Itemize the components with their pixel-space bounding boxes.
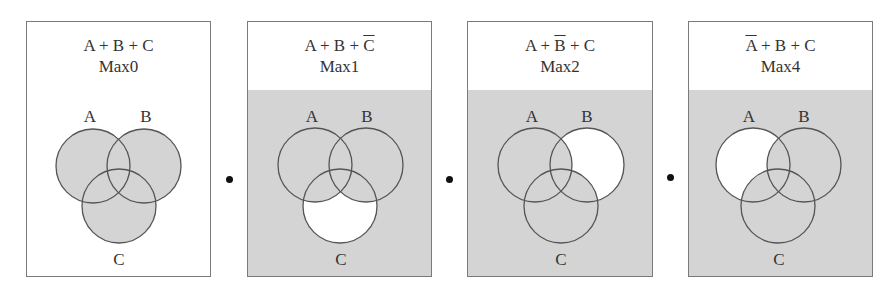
and-operator-dot <box>667 174 674 181</box>
maxterm-label: Max4 <box>761 56 801 77</box>
label-a: A <box>84 107 97 126</box>
venn-diagram: A B C <box>689 90 872 276</box>
maxterm-expression: A + B + C <box>83 35 153 56</box>
venn-panel-max1: A + B + C Max1 A B C <box>247 21 432 277</box>
maxterm-label: Max1 <box>320 56 360 77</box>
panel-header: A + B + C Max4 <box>689 22 872 91</box>
label-b: B <box>361 107 372 126</box>
venn-diagram: A B C <box>27 90 210 276</box>
label-b: B <box>581 107 592 126</box>
maxterm-label: Max2 <box>540 56 580 77</box>
and-operator-dot <box>226 176 233 183</box>
venn-panel-max4: A + B + C Max4 A B C <box>688 21 873 277</box>
label-b: B <box>798 107 809 126</box>
panel-header: A + B + C Max1 <box>248 22 431 91</box>
label-a: A <box>306 107 319 126</box>
venn-diagram: A B C <box>468 90 652 276</box>
venn-diagram: A B C <box>248 90 431 276</box>
label-c: C <box>335 250 346 269</box>
label-a: A <box>743 107 756 126</box>
maxterm-expression: A + B + C <box>304 35 374 56</box>
panel-header: A + B + C Max2 <box>468 22 652 91</box>
label-c: C <box>113 250 124 269</box>
venn-panel-max2: A + B + C Max2 A B C <box>467 21 653 277</box>
label-a: A <box>526 107 539 126</box>
panel-header: A + B + C Max0 <box>27 22 210 91</box>
maxterm-expression: A + B + C <box>745 35 815 56</box>
label-c: C <box>555 250 566 269</box>
venn-panel-max0: A + B + C Max0 A B C <box>26 21 211 277</box>
label-b: B <box>140 107 151 126</box>
label-c: C <box>773 250 784 269</box>
maxterm-label: Max0 <box>99 56 139 77</box>
maxterm-expression: A + B + C <box>525 35 595 56</box>
and-operator-dot <box>446 176 453 183</box>
